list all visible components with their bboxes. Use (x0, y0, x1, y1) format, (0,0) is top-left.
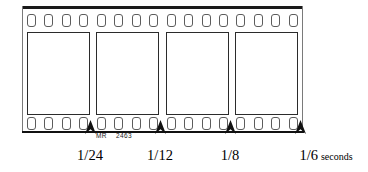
timeline-tick-arrow-icon (294, 120, 307, 134)
sprocket-hole (114, 14, 123, 27)
sprocket-hole (97, 14, 106, 27)
tick-label-value: 1/8 (221, 147, 240, 163)
sprocket-hole-row-top (22, 14, 303, 27)
filmstrip (22, 6, 303, 132)
film-frames-row (27, 32, 298, 115)
tick-label-value: 1/6 (299, 147, 318, 163)
timeline-tick-arrow-icon (84, 120, 97, 134)
edge-marking-code: 2463 (116, 132, 132, 139)
tick-label-value: 1/24 (77, 147, 103, 163)
sprocket-hole (167, 117, 176, 130)
sprocket-hole (236, 117, 245, 130)
sprocket-hole (132, 14, 141, 27)
sprocket-hole (97, 117, 106, 130)
timeline-tick-label: 1/12 (147, 148, 173, 163)
sprocket-hole (62, 117, 71, 130)
sprocket-hole (219, 14, 228, 27)
sprocket-hole (79, 14, 88, 27)
tick-label-value: 1/12 (147, 147, 173, 163)
sprocket-hole (44, 117, 53, 130)
sprocket-hole (114, 117, 123, 130)
film-frame (96, 32, 159, 115)
sprocket-hole (236, 14, 245, 27)
timeline-tick-label: 1/24 (77, 148, 103, 163)
sprocket-hole (167, 14, 176, 27)
film-edge-marking: MR2463 (96, 132, 132, 139)
timeline-tick-label: 1/8 (221, 148, 240, 163)
sprocket-hole (271, 117, 280, 130)
filmstrip-top-edge (22, 6, 303, 9)
sprocket-hole (254, 14, 263, 27)
sprocket-hole (27, 117, 36, 130)
sprocket-hole (184, 14, 193, 27)
sprocket-hole (254, 117, 263, 130)
sprocket-hole (202, 117, 211, 130)
sprocket-hole (271, 14, 280, 27)
film-frame (235, 32, 298, 115)
sprocket-hole (62, 14, 71, 27)
timeline-tick-label: 1/6seconds (299, 148, 352, 163)
sprocket-hole (202, 14, 211, 27)
sprocket-hole (27, 14, 36, 27)
timeline-tick-arrow-icon (224, 120, 237, 134)
sprocket-hole (149, 14, 158, 27)
edge-marking-manufacturer: MR (96, 132, 107, 139)
timeline-tick-arrow-icon (154, 120, 167, 134)
sprocket-hole (289, 14, 298, 27)
sprocket-hole (44, 14, 53, 27)
sprocket-hole (132, 117, 141, 130)
film-strip-timeline-figure: MR2463 1/24 1/12 1/8 1/6seconds (0, 0, 368, 172)
film-frame (27, 32, 90, 115)
tick-label-unit: seconds (321, 151, 353, 162)
sprocket-hole (184, 117, 193, 130)
film-frame (166, 32, 229, 115)
